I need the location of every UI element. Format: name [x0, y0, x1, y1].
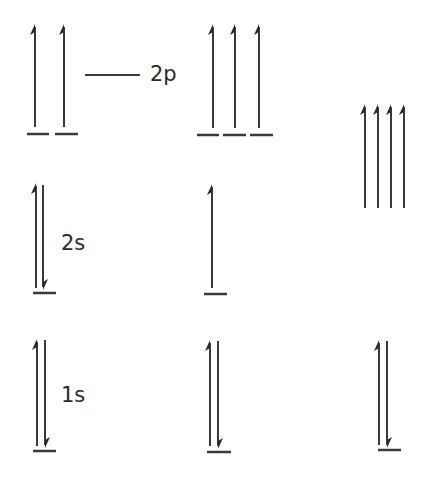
col1-1s-group — [33, 340, 56, 451]
col2-1s-group — [207, 341, 231, 452]
col3-1s-group — [378, 341, 401, 450]
col1-2s-group — [33, 185, 56, 293]
orbital-diagram: 2p 2s 1s — [0, 0, 433, 477]
col2-2p-group — [197, 27, 273, 135]
col3-hybrid-group — [365, 107, 404, 208]
col2-2s-group — [204, 187, 227, 294]
label-1s: 1s — [61, 385, 85, 406]
col1-2p-group — [27, 27, 140, 134]
label-2p: 2p — [150, 64, 177, 85]
label-2s: 2s — [61, 233, 85, 254]
